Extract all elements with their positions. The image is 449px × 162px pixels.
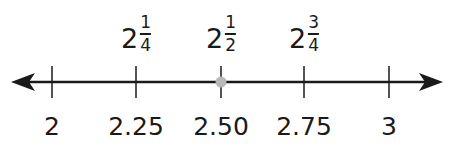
numerator: 1: [140, 14, 151, 31]
denominator: 2: [225, 37, 236, 54]
fraction-label-2-3-4: 2 34: [289, 14, 319, 54]
whole-part: 2: [121, 25, 138, 52]
highlighted-point: [216, 77, 227, 88]
decimal-label: 2.50: [193, 114, 249, 139]
whole-part: 2: [289, 25, 306, 52]
fraction-label-2-1-4: 2 14: [121, 14, 151, 54]
fraction-label-2-1-2: 2 12: [206, 14, 236, 54]
whole-part: 2: [206, 25, 223, 52]
decimal-label: 2.25: [108, 114, 164, 139]
decimal-label: 2: [44, 114, 60, 139]
decimal-label: 2.75: [276, 114, 332, 139]
numerator: 3: [308, 14, 319, 31]
decimal-label: 3: [381, 114, 397, 139]
denominator: 4: [308, 37, 319, 54]
denominator: 4: [140, 37, 151, 54]
numerator: 1: [225, 14, 236, 31]
